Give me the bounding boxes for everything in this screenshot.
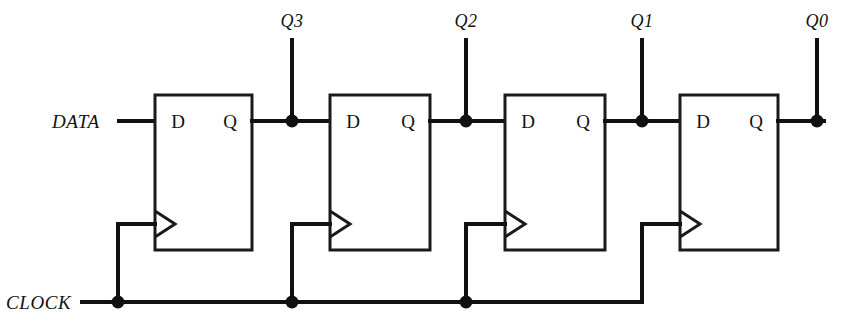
clock-branch-3 [466,224,507,302]
flipflop-2-d-label: D [346,111,360,132]
flipflop-1-q-label: Q [223,111,237,132]
data-input-label: DATA [51,111,100,132]
clock-junction-dot-2 [286,296,299,309]
q2-junction-dot [460,115,473,128]
clock-branch-4 [642,224,682,302]
clock-input-label: CLOCK [6,292,72,313]
flipflop-4-q-label: Q [749,111,763,132]
clock-branch-1 [118,224,157,302]
flipflop-2-q-label: Q [401,111,415,132]
flipflop-3-d-label: D [521,111,535,132]
output-label-q1: Q1 [631,11,654,31]
clock-branch-2 [292,224,332,302]
clock-junction-dot-1 [112,296,125,309]
output-label-q2: Q2 [455,11,478,31]
clock-junction-dot-3 [460,296,473,309]
output-label-q3: Q3 [281,11,304,31]
flipflop-4-d-label: D [696,111,710,132]
flipflop-3-q-label: Q [576,111,590,132]
q3-junction-dot [286,115,299,128]
flipflop-1-d-label: D [171,111,185,132]
q1-junction-dot [636,115,649,128]
circuit-diagram: D Q D Q D Q D Q Q3 Q2 Q1 Q0 DATA CLOCK [0,0,843,328]
q0-junction-dot [811,115,824,128]
output-label-q0: Q0 [806,11,829,31]
